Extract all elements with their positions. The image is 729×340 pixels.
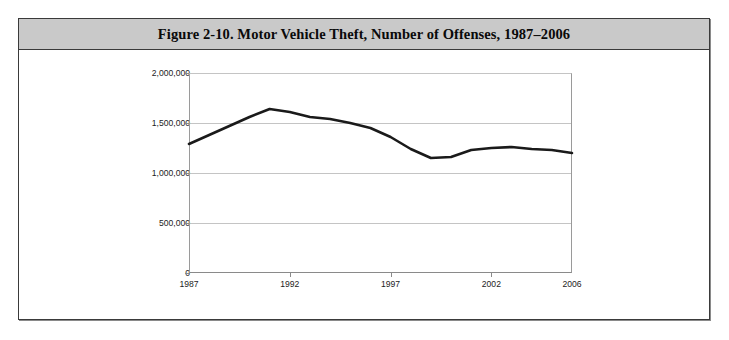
x-tick-mark xyxy=(491,273,492,277)
x-tick-label: 2002 xyxy=(482,279,501,289)
series-polyline xyxy=(189,109,572,158)
y-tick-mark xyxy=(185,273,189,274)
x-tick-label: 1987 xyxy=(179,279,198,289)
page-title: Figure 2-10. Motor Vehicle Theft, Number… xyxy=(158,26,570,43)
x-tick-label: 2006 xyxy=(562,279,581,289)
line-series xyxy=(189,73,572,273)
plot-region: 0500,0001,000,0001,500,0002,000,000 1987… xyxy=(189,73,572,273)
figure-title-banner: Figure 2-10. Motor Vehicle Theft, Number… xyxy=(19,19,709,50)
x-tick-label: 1997 xyxy=(381,279,400,289)
x-tick-label: 1992 xyxy=(280,279,299,289)
x-tick-mark xyxy=(290,273,291,277)
figure-container: Figure 2-10. Motor Vehicle Theft, Number… xyxy=(18,18,710,320)
chart-area: 0500,0001,000,0001,500,0002,000,000 1987… xyxy=(19,50,709,320)
x-tick-mark xyxy=(391,273,392,277)
